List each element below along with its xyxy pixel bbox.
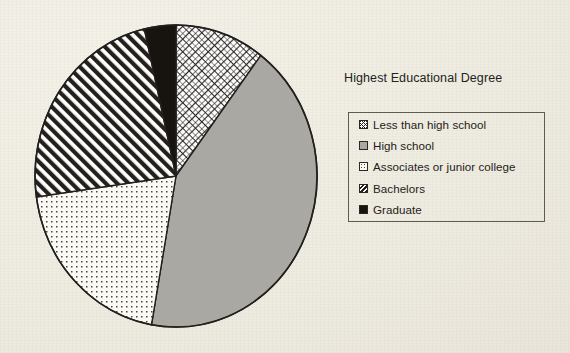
pie-slices — [35, 25, 317, 327]
pie-chart-svg — [30, 20, 322, 332]
legend: Less than high school High school Associ… — [359, 114, 545, 220]
chart-title: Highest Educational Degree — [344, 71, 502, 85]
legend-item-less-than-high-school[interactable]: Less than high school — [359, 117, 545, 133]
legend-item-label: High school — [373, 139, 434, 152]
legend-item-label: Less than high school — [373, 118, 486, 131]
legend-swatch-dots-icon — [359, 162, 368, 171]
legend-item-graduate[interactable]: Graduate — [359, 201, 545, 217]
pie-chart — [30, 20, 322, 332]
legend-swatch-hatch-icon — [359, 184, 368, 193]
legend-swatch-black-icon — [359, 205, 368, 214]
legend-item-label: Bachelors — [373, 182, 425, 195]
legend-item-associates-or-junior-college[interactable]: Associates or junior college — [359, 159, 545, 175]
pie-slice-associates-or-junior-college[interactable] — [36, 176, 176, 325]
legend-swatch-crosshatch-icon — [359, 120, 368, 129]
legend-item-label: Graduate — [373, 203, 422, 216]
legend-item-high-school[interactable]: High school — [359, 138, 545, 154]
legend-swatch-gray-icon — [359, 141, 368, 150]
legend-item-label: Associates or junior college — [373, 160, 516, 173]
legend-item-bachelors[interactable]: Bachelors — [359, 180, 545, 196]
